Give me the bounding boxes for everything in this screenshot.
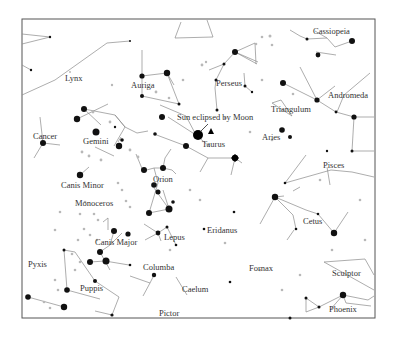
label-columba: Columba [143,262,174,272]
label-cancer: Cancer [33,131,57,141]
label-canis-minor: Canis Minor [61,180,104,190]
label-cassiopeia: Cassiopeia [313,26,350,36]
label-triangulum: Triangulum [271,104,311,114]
label-andromeda: Andromeda [328,90,368,100]
label-lepus: Lepus [164,232,185,242]
label-pisces: Pisces [323,160,344,170]
label-pyxis: Pyxis [28,259,47,269]
label-lynx: Lynx [65,73,83,83]
label-auriga: Auriga [131,80,155,90]
label-pictor: Pictor [159,308,179,318]
label-sculptor: Sculptor [332,268,361,278]
label-cetus: Cetus [303,216,322,226]
label-canis-major: Canis Major [95,237,137,247]
label-monoceros: Monoceros [75,198,113,208]
label-gemini: Gemini [83,136,109,146]
star-chart: Cassiopeia Lynx Auriga Perseus Andromeda… [0,0,394,339]
label-fornax: Fornax [249,263,274,273]
label-orion: Orion [153,174,174,184]
label-aries: Aries [262,132,280,142]
label-eridanus: Eridanus [207,225,237,235]
label-phoenix: Phoenix [329,304,358,314]
label-puppis: Puppis [80,283,103,293]
label-caelum: Caelum [182,284,209,294]
label-perseus: Perseus [216,78,242,88]
label-taurus: Taurus [202,139,225,149]
annotation-sun-eclipsed: Sun eclipsed by Moon [177,112,254,122]
